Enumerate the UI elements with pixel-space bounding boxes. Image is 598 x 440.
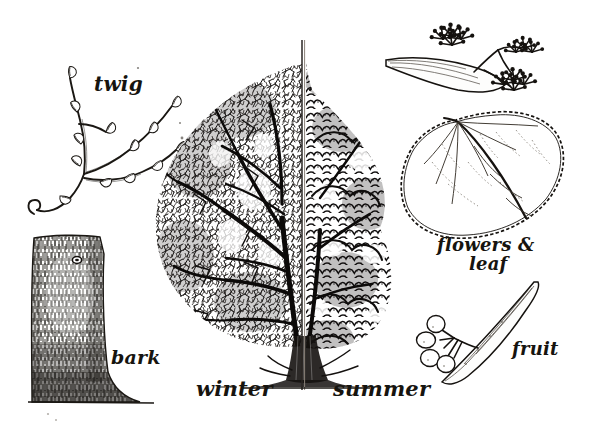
flowers-leaf-illustration [382, 22, 598, 238]
label-twig: twig [94, 74, 143, 95]
botanical-plate: twig [0, 0, 598, 440]
label-flowers-leaf: flowers & leaf [437, 236, 534, 274]
label-summer: summer [333, 378, 430, 400]
tree-habit-illustration [146, 18, 396, 400]
bark-illustration [22, 232, 162, 422]
label-fruit: fruit [512, 340, 558, 359]
label-flowers-line1: flowers & [437, 234, 534, 255]
label-winter: winter [196, 378, 273, 400]
label-flowers-line2: leaf [437, 255, 534, 274]
